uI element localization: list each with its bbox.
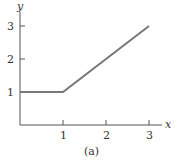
y-tick-label-3: 3 — [7, 20, 14, 33]
x-axis-label: x — [165, 118, 172, 131]
x-tick-label-1: 1 — [60, 129, 67, 142]
y-axis-label: y — [16, 0, 24, 13]
chart: y x 3 2 1 1 2 3 (a) — [0, 0, 177, 162]
y-tick-label-2: 2 — [7, 53, 14, 66]
caption: (a) — [84, 145, 99, 158]
y-tick-label-1: 1 — [7, 86, 14, 99]
x-tick-label-2: 2 — [103, 129, 110, 142]
data-line — [20, 26, 149, 92]
x-tick-label-3: 3 — [146, 129, 153, 142]
